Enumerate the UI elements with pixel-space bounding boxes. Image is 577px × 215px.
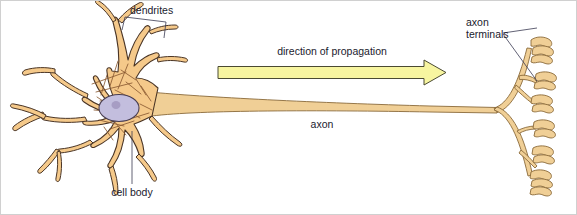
nucleus-shape (99, 95, 139, 122)
nucleolus (112, 101, 121, 109)
direction-of-propagation-label: direction of propagation (277, 45, 387, 57)
cell-body-label: cell body (111, 186, 153, 198)
neuron-illustration: dendrites cell body axon direction of pr… (0, 0, 577, 215)
dendrites-label: dendrites (130, 4, 173, 16)
axon-terminals-label-line2: terminals (466, 28, 509, 40)
axon-label: axon (311, 118, 334, 130)
neuron-diagram: dendrites cell body axon direction of pr… (0, 0, 577, 215)
axon-terminals-label-line1: axon (466, 16, 489, 28)
